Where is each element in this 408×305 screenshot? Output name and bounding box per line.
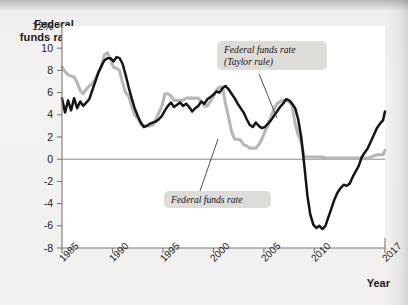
actual-rate-callout-line1: Federal funds rate <box>170 194 243 205</box>
y-tick-label: 10 <box>41 42 53 54</box>
actual-rate-callout: Federal funds rate <box>164 191 271 208</box>
y-tick-label: 8 <box>47 64 53 76</box>
y-tick-label: -8 <box>44 242 53 254</box>
y-tick-label: -6 <box>44 219 53 231</box>
y-axis-tick-labels: 12%1086420-2-4-6-8 <box>32 20 53 254</box>
y-tick-label: 6 <box>47 86 53 98</box>
y-tick-label: 0 <box>47 153 53 165</box>
y-tick-label: 12% <box>32 20 53 32</box>
taylor-rule-callout-line1: Federal funds rate <box>223 44 296 55</box>
y-tick-label: 2 <box>47 131 53 143</box>
taylor-rule-callout: Federal funds rate (Taylor rule) <box>217 41 327 70</box>
y-tick-label: -4 <box>44 197 53 209</box>
y-axis-ticks <box>57 26 62 248</box>
taylor-rule-callout-line2: (Taylor rule) <box>224 56 273 68</box>
y-tick-label: 4 <box>47 108 53 120</box>
y-tick-label: -2 <box>44 175 53 187</box>
x-axis-title: Year <box>367 277 390 289</box>
